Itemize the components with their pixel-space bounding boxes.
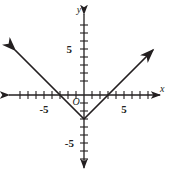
x-tick-label-neg5: -5 [39,103,49,115]
curve-right-branch [84,50,153,119]
y-tick-label-pos5: 5 [67,43,73,55]
coordinate-plane-svg: -5 5 5 -5 x y O [0,0,169,175]
y-tick-label-neg5: -5 [65,137,75,149]
y-axis [80,14,88,168]
x-axis-label: x [159,83,165,94]
y-axis-label: y [76,4,82,15]
x-tick-label-pos5: 5 [121,103,127,115]
curve-left-branch [15,50,84,119]
origin-label: O [72,96,79,107]
graph-figure: -5 5 5 -5 x y O [0,0,169,175]
